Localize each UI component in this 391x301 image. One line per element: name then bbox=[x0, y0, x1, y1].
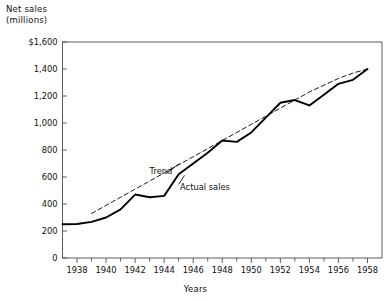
series-line-actual-sales bbox=[63, 69, 368, 224]
y-axis-ticks bbox=[63, 42, 68, 258]
y-tick-label: 1,000 bbox=[34, 118, 58, 128]
x-tick-label: 1958 bbox=[347, 265, 387, 275]
y-tick-label: $1,600 bbox=[28, 37, 57, 47]
plot-area bbox=[0, 0, 391, 301]
annotation-trend: Trend bbox=[150, 166, 173, 176]
annotation-actual-sales: Actual sales bbox=[180, 182, 230, 192]
y-tick-label: 1,400 bbox=[34, 64, 58, 74]
axes-frame bbox=[63, 42, 383, 258]
y-tick-label: 400 bbox=[42, 199, 58, 209]
y-tick-label: 0 bbox=[52, 253, 57, 263]
y-tick-label: 600 bbox=[42, 172, 58, 182]
chart-figure: Net sales (millions) Years $1,6001,4001,… bbox=[0, 0, 391, 301]
data-series-group bbox=[63, 69, 368, 224]
y-tick-label: 1,200 bbox=[34, 91, 58, 101]
y-tick-label: 200 bbox=[42, 226, 58, 236]
x-axis-ticks bbox=[77, 258, 367, 263]
y-tick-label: 800 bbox=[42, 145, 58, 155]
